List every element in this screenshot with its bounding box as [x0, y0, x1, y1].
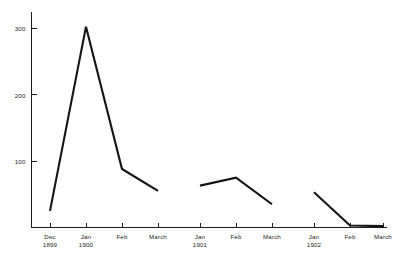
x-tick-marks: [50, 223, 383, 228]
x-tick-month: March: [149, 233, 167, 240]
x-tick-month: Jan: [309, 233, 319, 240]
data-series-group: [50, 27, 383, 227]
x-tick-year: 1901: [193, 241, 207, 250]
x-tick-month: Feb: [230, 233, 241, 240]
series-line-1: [50, 27, 158, 211]
x-tick-year: 1902: [307, 241, 321, 250]
x-tick-month: Dec: [44, 233, 55, 240]
x-tick-label: Jan1902: [307, 233, 321, 250]
x-tick-label: March: [374, 233, 392, 242]
x-tick-label: March: [149, 233, 167, 242]
x-tick-label: Jan1901: [193, 233, 207, 250]
x-tick-label: Feb: [344, 233, 355, 242]
y-tick-label: 100: [15, 158, 26, 165]
x-tick-label: Feb: [116, 233, 127, 242]
x-tick-month: Jan: [81, 233, 91, 240]
x-tick-month: March: [374, 233, 392, 240]
y-tick-marks: [32, 28, 37, 161]
x-tick-year: 1899: [43, 241, 57, 250]
y-tick-label: 300: [15, 25, 26, 32]
x-tick-label: Dec1899: [43, 233, 57, 250]
chart-figure: 100200300 Dec1899Jan1900FebMarchJan1901F…: [0, 0, 393, 260]
series-line-3: [314, 192, 383, 226]
x-tick-month: Feb: [116, 233, 127, 240]
x-tick-month: Feb: [344, 233, 355, 240]
x-tick-label: Feb: [230, 233, 241, 242]
x-tick-label: March: [263, 233, 281, 242]
y-tick-label: 200: [15, 91, 26, 98]
x-tick-month: March: [263, 233, 281, 240]
x-tick-year: 1900: [79, 241, 93, 250]
series-line-2: [200, 178, 272, 205]
x-tick-label: Jan1900: [79, 233, 93, 250]
plot-area: [0, 0, 393, 260]
x-tick-month: Jan: [195, 233, 205, 240]
